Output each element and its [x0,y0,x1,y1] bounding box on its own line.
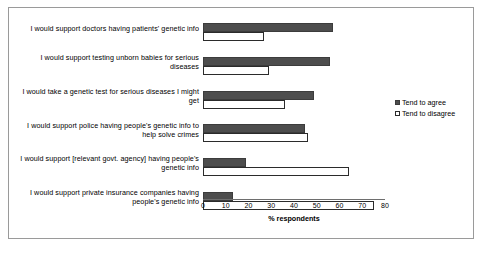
bar-agree-3 [203,91,314,100]
chart-legend: Tend to agree Tend to disagree [395,98,455,120]
category-label-5: I would support [relevant govt. agency] … [13,154,199,172]
x-axis-title: % respondents [203,214,385,223]
legend-label-agree: Tend to agree [402,98,446,107]
bar-agree-5 [203,158,246,167]
legend-label-disagree: Tend to disagree [402,109,455,118]
bar-disagree-1 [203,32,264,41]
bar-agree-1 [203,23,333,32]
legend-item-disagree: Tend to disagree [395,109,455,118]
bar-disagree-3 [203,100,285,109]
legend-swatch-disagree-icon [395,111,400,116]
bar-disagree-2 [203,66,269,75]
bar-disagree-5 [203,167,349,176]
category-label-2: I would support testing unborn babies fo… [13,53,199,71]
x-tick-label-80: 80 [377,202,393,209]
x-tick-label-40: 40 [286,202,302,209]
category-label-1: I would support doctors having patients'… [13,24,199,33]
x-tick-label-70: 70 [354,202,370,209]
chart-frame: I would support doctors having patients'… [8,7,474,239]
x-tick-label-20: 20 [241,202,257,209]
x-axis-line [203,199,385,200]
x-tick-label-60: 60 [332,202,348,209]
x-tick-label-10: 10 [218,202,234,209]
bar-disagree-4 [203,133,308,142]
category-label-6: I would support private insurance compan… [13,188,199,206]
legend-swatch-agree-icon [395,100,400,105]
plot-area: I would support doctors having patients'… [9,8,473,238]
category-label-3: I would take a genetic test for serious … [13,87,199,105]
x-tick-label-30: 30 [263,202,279,209]
legend-item-agree: Tend to agree [395,98,455,107]
x-tick-label-0: 0 [195,202,211,209]
bar-agree-4 [203,124,305,133]
bar-agree-2 [203,57,330,66]
x-tick-label-50: 50 [309,202,325,209]
category-label-4: I would support police having people's g… [13,121,199,139]
